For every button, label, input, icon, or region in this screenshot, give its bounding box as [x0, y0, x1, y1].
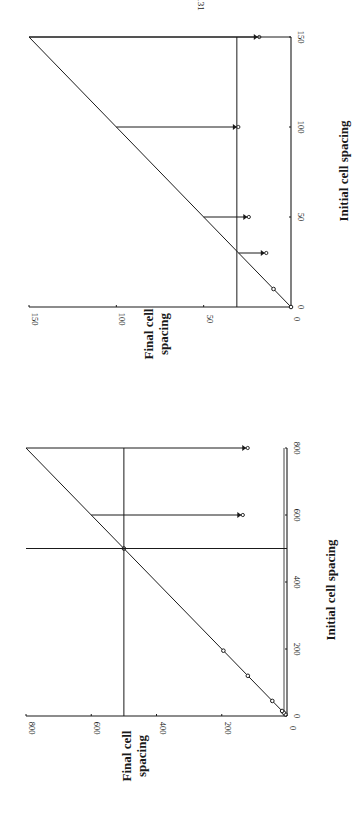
y-tick-label: 400: [158, 722, 168, 735]
data-point-marker: [246, 674, 250, 678]
arrowhead-icon: [261, 250, 265, 256]
y-tick-label: 800: [27, 722, 37, 735]
y-tick-label: 50: [205, 315, 215, 324]
x-tick-label: 800: [292, 442, 302, 455]
end-point-marker: [247, 215, 250, 218]
data-point-marker: [289, 305, 293, 309]
x-tick-label: 100: [296, 121, 306, 134]
data-point-marker: [271, 699, 275, 703]
end-point-marker: [237, 125, 240, 128]
x-tick-label: 400: [292, 576, 302, 589]
end-point-marker: [246, 446, 249, 449]
data-point-marker: [222, 649, 226, 653]
x-tick-label: 150: [296, 31, 306, 44]
rotated-page: 131 050100150050100150 02004006008000200…: [0, 0, 364, 815]
left-xlabel: Initial cell spacing: [323, 539, 338, 641]
y-tick-label: 600: [92, 722, 102, 735]
x-tick-label: 0: [292, 714, 302, 718]
x-tick-label: 600: [292, 509, 302, 522]
x-tick-label: 200: [292, 643, 302, 656]
x-tick-label: 0: [296, 305, 306, 309]
right-xlabel: Initial cell spacing: [336, 120, 351, 222]
y-tick-label: 100: [117, 313, 127, 326]
arrowhead-icon: [237, 512, 241, 518]
y-tick-label: 150: [30, 313, 40, 326]
y-tick-label: 200: [223, 722, 233, 735]
right-ylabel-line1: Final cell: [141, 308, 156, 359]
right-ylabel-line2: spacing: [156, 313, 171, 355]
arrowhead-icon: [233, 124, 237, 130]
y-tick-label: 0: [288, 726, 298, 730]
series-line: [29, 37, 291, 307]
y-tick-label: 0: [292, 317, 302, 321]
data-point-marker: [280, 709, 284, 713]
arrowhead-icon: [243, 214, 247, 220]
left-ylabel-line2: spacing: [134, 735, 149, 777]
data-point-marker: [272, 287, 276, 291]
figure-canvas: 131 050100150050100150 02004006008000200…: [0, 0, 364, 815]
page-number: 131: [196, 0, 206, 11]
chart-right-panel: 050100150050100150: [29, 31, 306, 326]
x-tick-label: 50: [296, 213, 306, 222]
end-point-marker: [265, 251, 268, 254]
end-point-marker: [241, 513, 244, 516]
arrowhead-icon: [242, 445, 246, 451]
chart-left-panel: 02004006008000200400600800: [26, 442, 302, 735]
left-ylabel-line1: Final cell: [119, 730, 134, 781]
